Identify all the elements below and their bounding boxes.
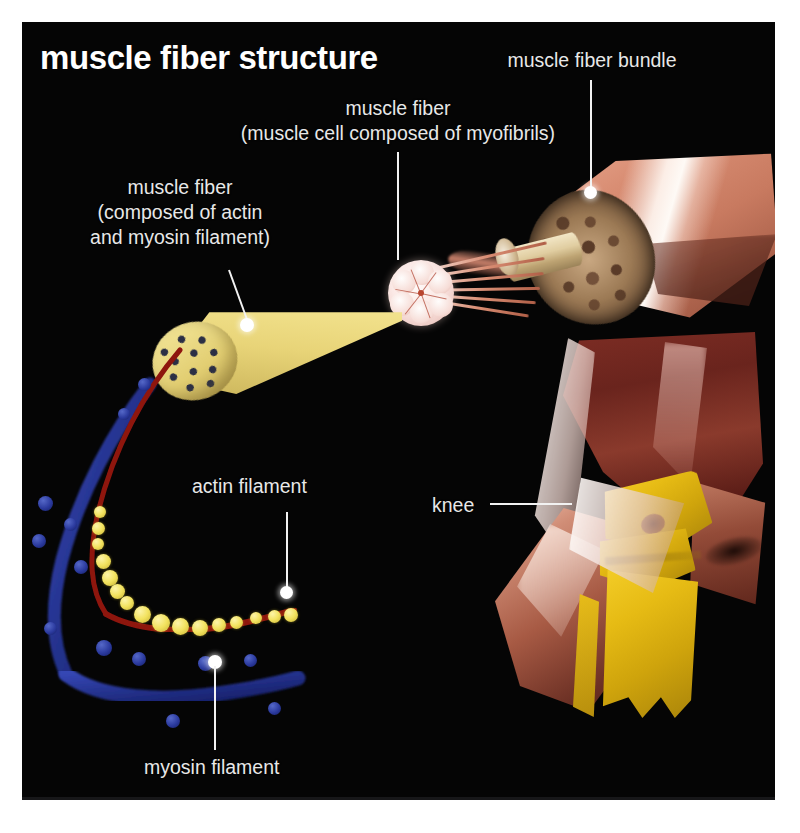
label-myosin-filament: myosin filament <box>144 755 279 780</box>
illustration-page: muscle fiber structure <box>0 0 800 833</box>
label-muscle-fiber-filament-line2: (composed of actin <box>62 200 298 225</box>
label-knee: knee <box>432 493 474 518</box>
label-muscle-fiber-filament: muscle fiber (composed of actin and myos… <box>62 175 298 250</box>
myosin-filament-lower-rod <box>66 674 298 698</box>
page-title: muscle fiber structure <box>40 39 378 77</box>
label-actin-filament: actin filament <box>192 474 307 499</box>
leader-dot-bundle <box>584 186 597 199</box>
bundle-wedge-shadow <box>644 234 775 334</box>
leader-dot-fiber-filament <box>240 318 254 332</box>
label-muscle-fiber-cell-line1: muscle fiber <box>208 96 588 121</box>
label-muscle-fiber-filament-line1: muscle fiber <box>62 175 298 200</box>
leader-line-myosin <box>214 666 216 750</box>
illustration-panel: muscle fiber structure <box>22 22 775 800</box>
cell-core <box>418 290 424 296</box>
leader-line-actin <box>286 512 288 592</box>
label-muscle-fiber-bundle: muscle fiber bundle <box>502 48 682 73</box>
leader-dot-actin <box>280 586 293 599</box>
filament-curves <box>22 322 422 742</box>
leader-line-fiber-cell <box>397 152 399 260</box>
knee-illustration <box>477 332 775 752</box>
label-muscle-fiber-cell: muscle fiber (muscle cell composed of my… <box>208 96 588 146</box>
label-muscle-fiber-filament-line3: and myosin filament) <box>62 225 298 250</box>
label-muscle-fiber-cell-line2: (muscle cell composed of myofibrils) <box>208 121 588 146</box>
leader-line-knee <box>490 503 572 505</box>
filament-illustration <box>22 322 422 742</box>
leader-line-bundle <box>590 80 592 192</box>
